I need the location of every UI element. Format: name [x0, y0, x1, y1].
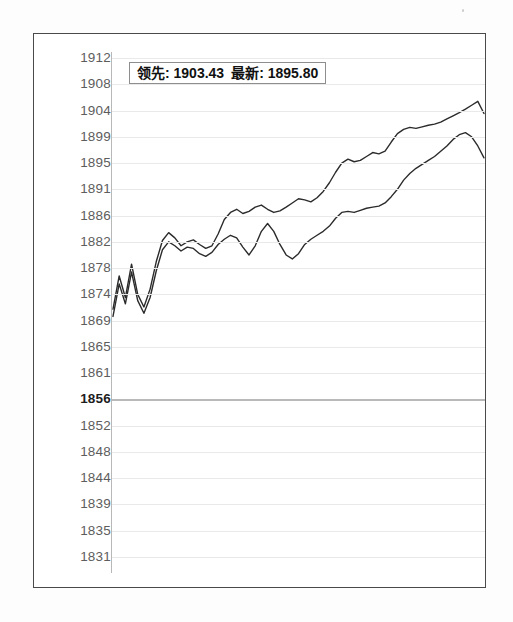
chart-frame: 1912190819041899189518911886188218781874… — [33, 33, 486, 588]
y-axis-tick-label: 1908 — [39, 78, 111, 92]
gridline — [112, 426, 485, 427]
gridline — [112, 137, 485, 138]
y-axis-tick-label: 1895 — [39, 156, 111, 170]
y-axis-tick-label: 1839 — [39, 498, 111, 512]
y-axis-tick-label: 1869 — [39, 314, 111, 328]
y-axis-tick-label: 1878 — [39, 261, 111, 275]
y-axis-tick-label: 1844 — [39, 471, 111, 485]
gridline — [112, 531, 485, 532]
series-line-latest — [113, 133, 484, 317]
gridline — [112, 111, 485, 112]
y-axis-tick-label: 1835 — [39, 524, 111, 538]
gridline — [112, 347, 485, 348]
scan-artifact-speck — [462, 9, 464, 12]
gridline — [112, 189, 485, 190]
gridline — [112, 504, 485, 505]
gridline — [112, 242, 485, 243]
y-axis-tick-label: 1852 — [39, 419, 111, 433]
readout-leading-value: 领先: 1903.43 — [137, 66, 224, 80]
series-line-leading — [113, 101, 484, 309]
gridline — [112, 452, 485, 453]
gridline — [112, 58, 485, 59]
y-axis-tick-label: 1865 — [39, 340, 111, 354]
series-lines — [112, 52, 485, 573]
y-axis-labels: 1912190819041899189518911886188218781874… — [34, 52, 111, 573]
gridline — [112, 216, 485, 217]
gridline — [112, 321, 485, 322]
y-axis-tick-label: 1891 — [39, 183, 111, 197]
scan-page: 1912190819041899189518911886188218781874… — [0, 0, 513, 622]
gridline — [112, 478, 485, 479]
gridline — [112, 268, 485, 269]
y-axis-tick-label: 1831 — [39, 550, 111, 564]
readout-latest-value: 最新: 1895.80 — [231, 66, 318, 80]
y-axis-tick-label: 1886 — [39, 209, 111, 223]
gridline — [112, 294, 485, 295]
readout-box[interactable]: 领先: 1903.43 最新: 1895.80 — [129, 62, 326, 84]
gridline — [112, 557, 485, 558]
gridline — [112, 373, 485, 374]
y-axis-tick-label: 1848 — [39, 445, 111, 459]
y-axis-tick-label: 1904 — [39, 104, 111, 118]
gridline — [112, 163, 485, 164]
y-axis-tick-label: 1874 — [39, 288, 111, 302]
y-axis-tick-label: 1899 — [39, 130, 111, 144]
plot-area[interactable] — [111, 52, 485, 573]
y-axis-tick-label: 1856 — [39, 393, 111, 407]
reference-line-1856 — [112, 399, 485, 401]
y-axis-tick-label: 1861 — [39, 366, 111, 380]
gridline — [112, 84, 485, 85]
y-axis-tick-label: 1882 — [39, 235, 111, 249]
y-axis-tick-label: 1912 — [39, 51, 111, 65]
